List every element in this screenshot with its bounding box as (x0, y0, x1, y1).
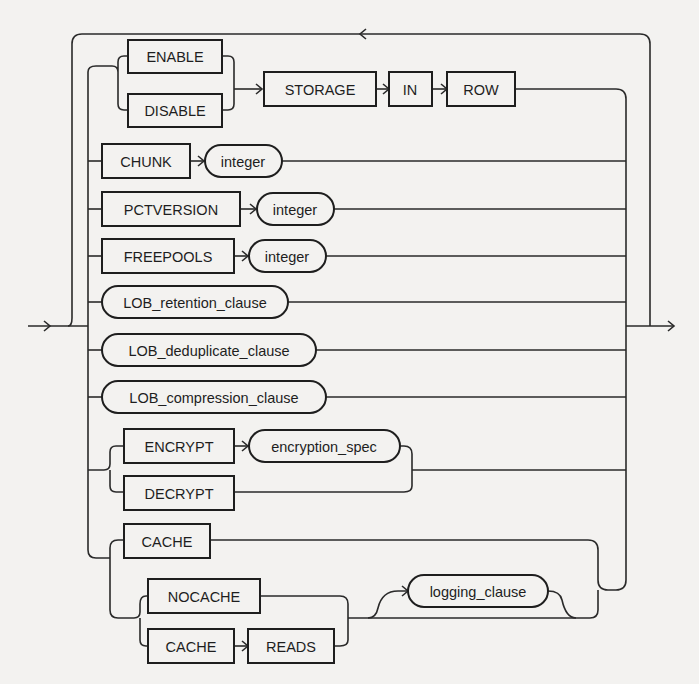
node-encryption-spec: encryption_spec (249, 430, 400, 462)
node-freepools: FREEPOOLS (102, 239, 234, 273)
node-logging-clause: logging_clause (408, 575, 548, 607)
enable-in (96, 56, 128, 72)
node-label: STORAGE (285, 82, 356, 98)
node-label: CHUNK (120, 154, 172, 170)
node-label: DISABLE (144, 103, 206, 119)
logging-out (548, 591, 576, 618)
node-label: logging_clause (430, 584, 527, 600)
cache-reads-in (140, 618, 148, 646)
node-label: ENABLE (146, 49, 204, 65)
node-label: ROW (463, 82, 499, 98)
node-pctversion: PCTVERSION (102, 192, 240, 226)
node-nocache: NOCACHE (148, 579, 260, 613)
node-encrypt: ENCRYPT (124, 429, 234, 463)
nocache-group-in (110, 558, 134, 618)
node-label: integer (265, 249, 310, 265)
node-in: IN (389, 72, 432, 106)
node-label: CACHE (142, 534, 193, 550)
node-lob-retention-clause: LOB_retention_clause (102, 286, 288, 318)
enable-disable-join (222, 56, 234, 110)
node-decrypt: DECRYPT (124, 476, 234, 510)
node-label: encryption_spec (271, 439, 377, 455)
node-cache: CACHE (124, 524, 210, 558)
node-label: LOB_compression_clause (129, 390, 298, 406)
encrypt-in (88, 446, 124, 470)
node-lob-deduplicate-clause: LOB_deduplicate_clause (102, 334, 316, 366)
disable-in (118, 72, 128, 110)
node-label: CACHE (166, 639, 217, 655)
node-freepools-integer: integer (249, 240, 326, 272)
node-label: FREEPOOLS (124, 249, 213, 265)
node-label: ENCRYPT (144, 439, 213, 455)
node-row: ROW (447, 72, 515, 106)
node-label: PCTVERSION (124, 202, 218, 218)
node-label: integer (273, 202, 318, 218)
syntax-diagram: ENABLE DISABLE STORAGE IN ROW CHUNK inte… (0, 0, 699, 684)
left-bus-top (88, 66, 96, 326)
node-storage: STORAGE (264, 72, 376, 106)
node-label: READS (266, 639, 316, 655)
node-chunk-integer: integer (205, 145, 282, 177)
node-chunk: CHUNK (102, 144, 190, 178)
node-label: NOCACHE (168, 589, 241, 605)
cache-in (110, 540, 124, 558)
cache-exit (210, 470, 626, 590)
node-label: LOB_retention_clause (123, 295, 267, 311)
decrypt-in (110, 470, 124, 492)
node-reads: READS (248, 629, 334, 663)
node-label: LOB_deduplicate_clause (128, 343, 289, 359)
node-cache-2: CACHE (148, 629, 234, 663)
nocache-in (134, 596, 148, 618)
node-disable: DISABLE (128, 94, 222, 127)
node-enable: ENABLE (128, 40, 222, 73)
node-pctversion-integer: integer (257, 193, 334, 225)
node-label: integer (221, 154, 266, 170)
node-label: IN (403, 82, 418, 98)
row-exit (515, 89, 626, 130)
node-lob-compression-clause: LOB_compression_clause (102, 381, 326, 413)
node-label: DECRYPT (144, 486, 213, 502)
